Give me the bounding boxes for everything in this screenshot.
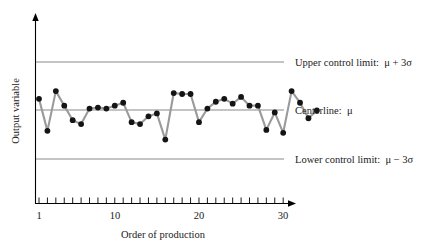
data-point <box>53 88 59 94</box>
data-point <box>87 106 93 112</box>
data-point <box>146 113 152 119</box>
y-axis <box>32 13 38 204</box>
data-point <box>78 121 84 127</box>
data-point <box>255 103 261 109</box>
y-axis-title: Output variable <box>10 78 21 144</box>
series-line-output-variable <box>39 91 317 140</box>
x-axis-title: Order of production <box>121 229 206 240</box>
data-point <box>188 91 194 97</box>
data-point <box>205 106 211 112</box>
data-point <box>213 99 219 105</box>
data-point <box>179 91 185 97</box>
data-point <box>103 106 109 112</box>
data-point <box>95 105 101 111</box>
data-point <box>280 130 286 136</box>
upper-control-limit-label: Upper control limit: μ + 3σ <box>295 57 412 68</box>
x-tick-label-1: 1 <box>36 210 41 221</box>
control-chart-canvas: 1 10 20 30 Order of production Output va… <box>0 0 434 250</box>
data-point <box>289 88 295 94</box>
data-point <box>306 115 312 121</box>
data-point <box>221 96 227 102</box>
x-tick-label-10: 10 <box>110 210 121 221</box>
data-point <box>196 119 202 125</box>
data-point <box>61 103 67 109</box>
data-point <box>120 100 126 106</box>
data-point <box>154 111 160 117</box>
data-point <box>230 101 236 107</box>
y-axis-arrowhead <box>32 13 38 21</box>
series-markers <box>36 88 320 142</box>
data-point <box>36 96 42 102</box>
data-point <box>129 119 135 125</box>
data-point <box>70 117 76 123</box>
data-point <box>45 128 51 134</box>
data-point <box>263 127 269 133</box>
data-point <box>171 90 177 96</box>
data-point <box>247 103 253 109</box>
data-point <box>112 103 118 109</box>
x-tick-label-20: 20 <box>194 210 205 221</box>
control-chart: 1 10 20 30 Order of production Output va… <box>0 0 434 250</box>
x-tick-label-30: 30 <box>278 210 289 221</box>
data-point <box>272 110 278 116</box>
x-axis-ticks <box>39 198 283 204</box>
x-axis-arrowhead <box>288 200 296 206</box>
lower-control-limit-label: Lower control limit: μ − 3σ <box>295 154 413 165</box>
centerline-label: Centerline: μ <box>295 105 353 116</box>
data-point <box>238 94 244 100</box>
data-point <box>137 121 143 127</box>
data-point <box>162 137 168 143</box>
